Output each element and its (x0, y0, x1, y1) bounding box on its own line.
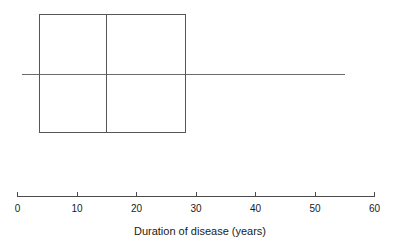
x-tick-label-0: 0 (15, 203, 21, 214)
x-tick-label-40: 40 (250, 203, 262, 214)
x-tick-label-30: 30 (190, 203, 202, 214)
boxplot-figure: 0 10 20 30 40 50 60 Duration of disease … (0, 0, 400, 245)
boxplot-canvas: 0 10 20 30 40 50 60 Duration of disease … (0, 0, 400, 245)
x-tick-label-10: 10 (71, 203, 83, 214)
x-tick-label-60: 60 (369, 203, 381, 214)
x-tick-label-50: 50 (309, 203, 321, 214)
x-axis-title: Duration of disease (years) (134, 225, 266, 237)
x-tick-label-20: 20 (131, 203, 143, 214)
